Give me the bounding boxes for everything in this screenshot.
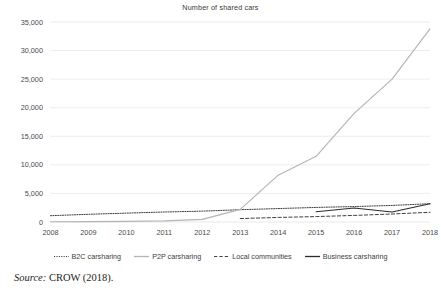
x-axis-tick-label: 2018 (415, 228, 441, 237)
legend-item-p2p-carsharing[interactable]: P2P carsharing (134, 252, 201, 261)
series-line-local-communities (240, 212, 430, 218)
x-axis-tick-label: 2013 (225, 228, 255, 237)
y-axis-tick-label: 20,000 (3, 103, 43, 112)
x-axis-tick-label: 2017 (377, 228, 407, 237)
legend-item-b2c-carsharing[interactable]: B2C carsharing (54, 252, 122, 261)
source-caption: Source: CROW (2018). (14, 272, 113, 283)
legend-label-business-carsharing: Business carsharing (323, 252, 388, 261)
legend-swatch-b2c-carsharing (54, 253, 69, 260)
source-label: Source: (14, 272, 46, 283)
legend-label-local-communities: Local communities (232, 252, 292, 261)
legend-label-p2p-carsharing: P2P carsharing (152, 252, 201, 261)
legend-swatch-business-carsharing (305, 253, 320, 260)
y-axis-tick-label: 0 (3, 218, 43, 227)
series-line-p2p-carsharing (51, 29, 431, 222)
x-axis-tick-label: 2008 (36, 228, 66, 237)
chart-plot-area (0, 0, 441, 248)
x-axis-tick-label: 2012 (187, 228, 217, 237)
figure-container: Number of shared cars 05,00010,00015,000… (0, 0, 441, 293)
x-axis-tick-label: 2015 (301, 228, 331, 237)
legend-swatch-local-communities (214, 253, 229, 260)
x-axis-tick-label: 2011 (149, 228, 179, 237)
y-axis-tick-label: 10,000 (3, 160, 43, 169)
chart-legend: B2C carsharingP2P carsharingLocal commun… (0, 252, 441, 261)
legend-swatch-p2p-carsharing (134, 253, 149, 260)
legend-item-business-carsharing[interactable]: Business carsharing (305, 252, 388, 261)
y-axis-tick-label: 5,000 (3, 189, 43, 198)
y-axis-tick-label: 25,000 (3, 75, 43, 84)
gridlines (51, 22, 431, 222)
x-axis-tick-label: 2014 (263, 228, 293, 237)
x-axis-tick-label: 2010 (111, 228, 141, 237)
y-axis-tick-label: 35,000 (3, 18, 43, 27)
y-axis-tick-label: 15,000 (3, 132, 43, 141)
x-axis-tick-label: 2009 (73, 228, 103, 237)
y-axis-tick-label: 30,000 (3, 46, 43, 55)
source-value: CROW (2018). (49, 272, 114, 283)
series-lines (51, 29, 431, 222)
legend-label-b2c-carsharing: B2C carsharing (72, 252, 122, 261)
legend-item-local-communities[interactable]: Local communities (214, 252, 292, 261)
x-axis-tick-label: 2016 (339, 228, 369, 237)
